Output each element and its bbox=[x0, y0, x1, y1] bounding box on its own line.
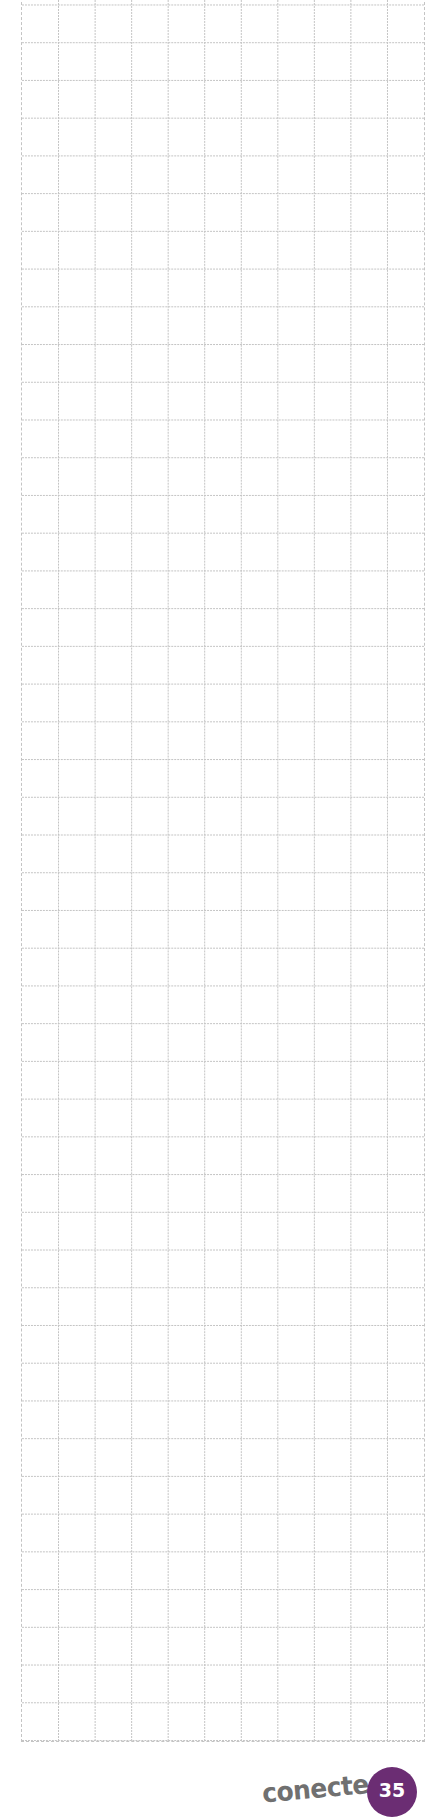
brand-logo: conecte bbox=[261, 1770, 355, 1810]
brand-name: conecte bbox=[261, 1768, 371, 1811]
page-number-badge: 35 bbox=[367, 1767, 417, 1817]
grid-lines bbox=[22, 0, 424, 1741]
page-number: 35 bbox=[379, 1779, 405, 1801]
grid-paper bbox=[21, 0, 425, 1742]
